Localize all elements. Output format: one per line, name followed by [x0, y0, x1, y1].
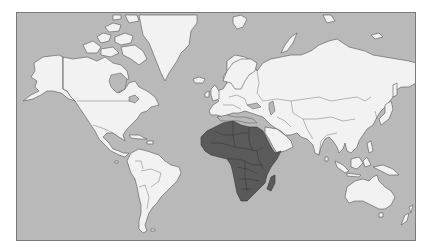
region-hispaniola — [147, 141, 153, 144]
region-madagascar — [267, 175, 275, 191]
world-map — [16, 12, 416, 241]
region-iceland — [193, 77, 205, 83]
map-svg — [17, 13, 416, 241]
region-north-america — [63, 57, 159, 157]
region-canadian-arctic — [83, 15, 147, 65]
region-ireland — [205, 91, 209, 97]
region-cuba — [129, 135, 147, 139]
region-indonesia — [335, 161, 349, 173]
region-uk — [211, 85, 219, 101]
mediterranean-sea — [217, 115, 257, 123]
region-australia — [345, 175, 395, 209]
region-novaya-zemlya — [281, 33, 297, 53]
region-svalbard — [233, 15, 247, 29]
region-falklands — [151, 229, 155, 231]
region-tasmania — [379, 213, 383, 217]
region-greenland — [139, 15, 197, 81]
region-south-america — [127, 149, 181, 233]
region-new-guinea — [373, 165, 399, 175]
region-new-zealand — [409, 205, 413, 213]
